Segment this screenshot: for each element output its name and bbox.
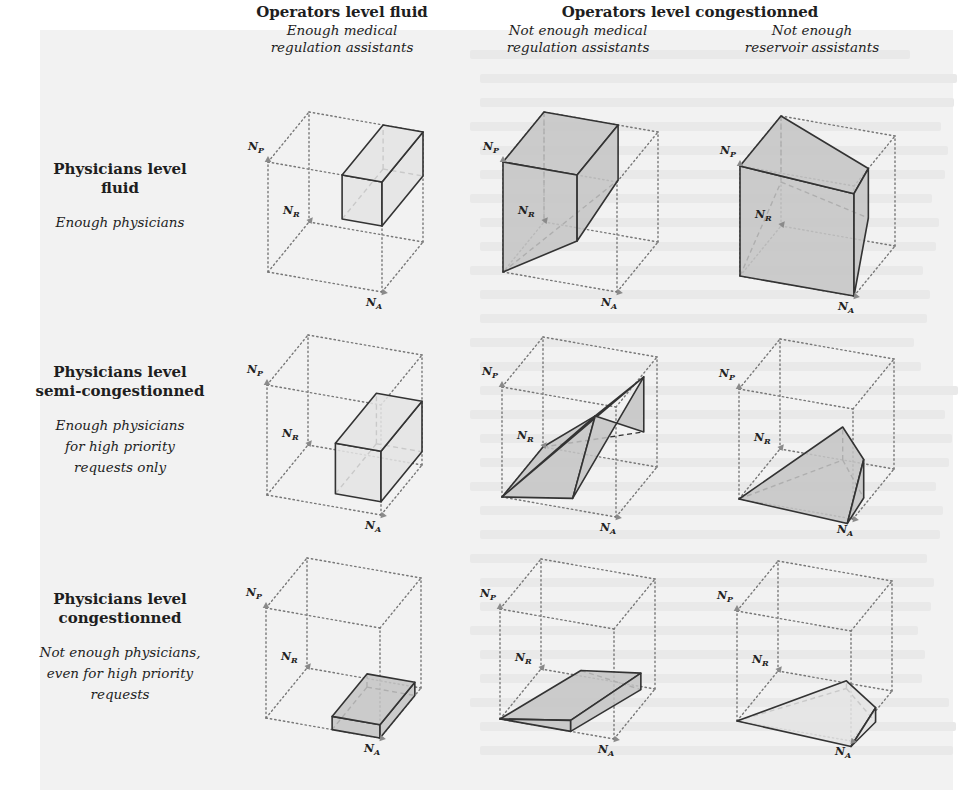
region-front-face: [335, 443, 381, 502]
na-axis-arrow-icon: [380, 512, 386, 519]
nr-axis-label: NR: [751, 653, 769, 668]
cube-cell-r1-c3: NPNRNA: [719, 116, 895, 315]
na-axis-label: NA: [597, 743, 614, 758]
bounding-cube-edge: [268, 272, 382, 292]
na-axis-label: NA: [600, 296, 617, 311]
np-axis-label: NP: [246, 363, 264, 378]
na-axis-label: NA: [363, 742, 380, 757]
bounding-cube-edge: [380, 578, 421, 628]
cube-cell-r2-c3: NPNRNA: [718, 339, 894, 538]
na-axis-arrow-icon: [615, 514, 621, 521]
np-axis-label: NP: [245, 586, 263, 601]
cube-cell-r3-c3: NPNRNA: [716, 561, 892, 760]
na-axis-arrow-icon: [852, 516, 858, 523]
bounding-cube-edge: [267, 335, 308, 385]
bounding-cube-edge: [780, 339, 894, 359]
nr-axis-label: NR: [516, 429, 534, 444]
bounding-cube-edge: [266, 668, 307, 718]
bounding-cube-edge: [267, 385, 381, 405]
nr-axis-label: NR: [280, 650, 298, 665]
region-front-face: [342, 175, 382, 226]
bounding-cube-edge: [543, 337, 657, 357]
bounding-cube-edge: [502, 337, 543, 387]
na-axis-label: NA: [836, 523, 853, 538]
np-axis-label: NP: [718, 367, 736, 382]
region-face: [503, 162, 577, 272]
np-axis-label: NP: [482, 140, 500, 155]
bounding-cube-edge: [616, 467, 657, 517]
na-axis-label: NA: [599, 521, 616, 536]
np-axis-label: NP: [481, 365, 499, 380]
bounding-cube-edge: [853, 359, 894, 409]
bounding-cube-edge: [502, 387, 616, 407]
cube-cell-r2-c1: NPNRNA: [246, 335, 422, 534]
na-axis-label: NA: [834, 745, 851, 760]
bounding-cube-edge: [309, 222, 423, 242]
np-axis-label: NP: [716, 589, 734, 604]
bounding-cube-edge: [267, 445, 308, 495]
bounding-cube-edge: [614, 579, 655, 629]
bounding-cube-edge: [502, 497, 616, 517]
np-axis-label: NP: [247, 140, 265, 155]
bounding-cube-edge: [737, 561, 778, 611]
cube-cell-r1-c2: NPNRNA: [482, 112, 658, 311]
bounding-cube-edge: [266, 608, 380, 628]
na-axis-arrow-icon: [616, 289, 622, 296]
bounding-cube-edge: [268, 112, 309, 162]
cube-cell-r2-c2: NPNRNA: [481, 337, 657, 536]
bounding-cube-edge: [541, 559, 655, 579]
bounding-cube-edge: [503, 272, 617, 292]
cube-cell-r1-c1: NPNRNA: [247, 112, 423, 311]
nr-axis-label: NR: [281, 427, 299, 442]
np-axis-label: NP: [479, 587, 497, 602]
na-axis-label: NA: [837, 300, 854, 315]
nr-axis-label: NR: [753, 431, 771, 446]
na-axis-arrow-icon: [853, 293, 859, 300]
bounding-cube-edge: [851, 581, 892, 631]
region-face: [737, 681, 876, 747]
nr-axis-label: NR: [514, 651, 532, 666]
na-axis-arrow-icon: [381, 289, 387, 296]
bounding-cube-edge: [268, 222, 309, 272]
na-axis-label: NA: [365, 296, 382, 311]
bounding-cube-edge: [739, 389, 853, 409]
bounding-cube-edge: [307, 558, 421, 578]
bounding-cube-edge: [778, 561, 892, 581]
np-axis-label: NP: [719, 144, 737, 159]
cube-cell-r3-c2: NPNRNA: [479, 559, 655, 758]
bounding-cube-edge: [617, 132, 658, 182]
bounding-cube-edge: [739, 339, 780, 389]
bounding-cube-edge: [500, 559, 541, 609]
bounding-cube-edge: [500, 609, 614, 629]
bounding-cube-edge: [382, 242, 423, 292]
bounding-cube-edge: [737, 611, 851, 631]
bounding-cube-edge: [308, 335, 422, 355]
bounding-cube-edge: [266, 558, 307, 608]
na-axis-label: NA: [364, 519, 381, 534]
region-face: [500, 719, 571, 731]
cube-cell-r3-c1: NPNRNA: [245, 558, 421, 757]
bounding-cube-edge: [617, 242, 658, 292]
na-axis-arrow-icon: [613, 736, 619, 743]
nr-axis-label: NR: [282, 204, 300, 219]
